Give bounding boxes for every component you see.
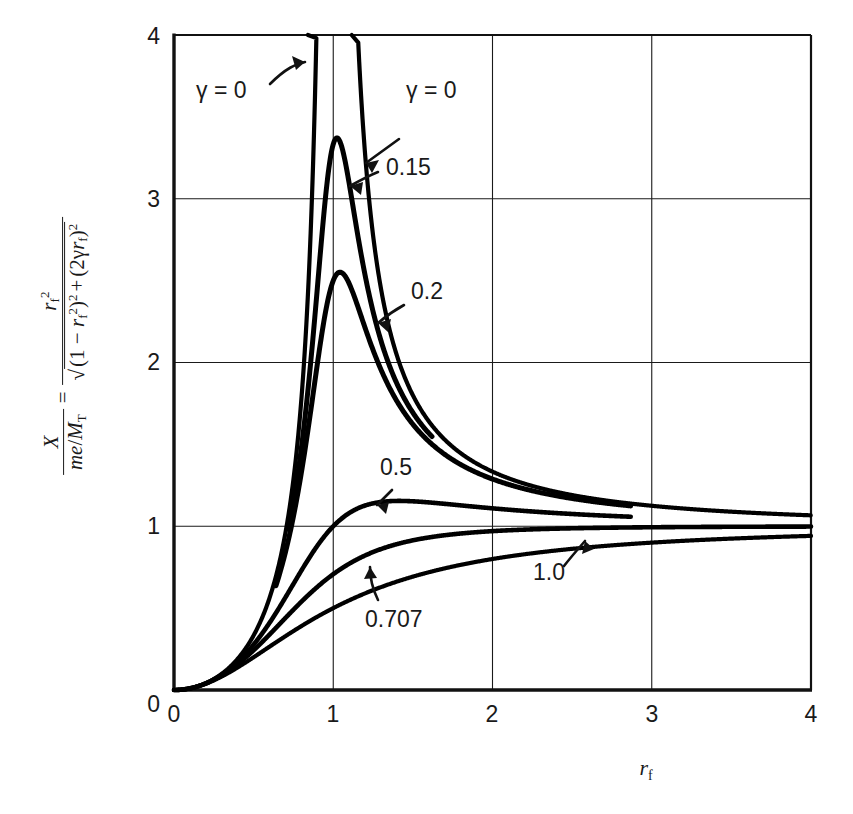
curve-label-0-15: 0.15 <box>386 154 431 180</box>
lhs-me: me <box>63 446 87 471</box>
lhs-M-sub: T <box>73 414 88 422</box>
leader-arrows <box>270 62 585 600</box>
leader-arrowheads <box>292 56 594 579</box>
rad-close-pow: 2 <box>66 294 81 301</box>
rad-open: (1 − <box>65 327 89 367</box>
rhs-r: r <box>37 302 61 310</box>
y-tick-3: 3 <box>147 186 160 212</box>
arrowhead-0707 <box>364 567 377 579</box>
lhs-X: X <box>39 436 63 449</box>
rad2-close: ) <box>65 230 89 237</box>
frequency-response-plot: 0 1 2 3 4 0 1 2 3 4 γ = 0 γ = 0 0.15 0.2… <box>0 0 853 814</box>
rad-plus: + <box>65 277 89 295</box>
rad2-r-sub: f <box>76 237 91 241</box>
x-tick-0: 0 <box>168 701 181 727</box>
y-tick-0: 0 <box>147 691 160 717</box>
rad2-r: r <box>65 242 89 250</box>
y-tick-labels: 0 1 2 3 4 <box>147 23 160 717</box>
curve-label-0-2: 0.2 <box>411 278 443 304</box>
x-axis-title: rf <box>639 755 653 783</box>
x-tick-labels: 0 1 2 3 4 <box>168 701 818 727</box>
rad2-open: (2 <box>65 259 89 277</box>
arrow-015 <box>350 172 378 186</box>
curve-label-gamma-0-left: γ = 0 <box>196 77 247 103</box>
arrow-10 <box>564 541 585 566</box>
rad-r-sub: f <box>76 315 91 319</box>
lhs-slash: / <box>63 440 87 446</box>
y-tick-2: 2 <box>147 349 160 375</box>
svg-text:rf: rf <box>639 755 653 783</box>
figure-canvas: 0 1 2 3 4 0 1 2 3 4 γ = 0 γ = 0 0.15 0.2… <box>0 0 853 814</box>
y-axis-rhs-fraction: rf2 √(1 − rf2)2+(2γrf)2 <box>38 217 90 386</box>
x-tick-2: 2 <box>486 701 499 727</box>
y-axis-title: X me/MT = rf2 √(1 − rf2)2+(2γrf)2 <box>38 186 90 506</box>
rhs-r-sub: f <box>47 298 62 302</box>
x-axis-title-sub: f <box>648 768 653 783</box>
curve-label-1-0: 1.0 <box>533 559 565 585</box>
curve-label-gamma-0-right: γ = 0 <box>406 77 457 103</box>
rad-r: r <box>65 319 89 327</box>
rhs-r-sup: 2 <box>37 292 52 299</box>
radical-icon: √ <box>67 369 88 381</box>
rad-r-sup: 2 <box>66 308 81 315</box>
curve-gamma-0-right-branch <box>352 35 811 515</box>
x-tick-3: 3 <box>646 701 659 727</box>
x-tick-4: 4 <box>805 701 818 727</box>
x-tick-1: 1 <box>327 701 340 727</box>
curve-gamma-0-2 <box>276 272 631 586</box>
lhs-M: M <box>63 422 87 440</box>
rad-close: ) <box>65 301 89 308</box>
y-tick-4: 4 <box>147 23 160 49</box>
rad2-gamma: γ <box>65 250 89 259</box>
curve-label-0-707: 0.707 <box>365 606 423 632</box>
arrowhead-gamma0-left <box>292 56 305 70</box>
y-axis-equals: = <box>54 385 75 409</box>
y-axis-lhs-fraction: X me/MT <box>41 409 88 475</box>
y-tick-1: 1 <box>147 513 160 539</box>
curve-label-0-5: 0.5 <box>380 454 412 480</box>
radicand: (1 − rf2)2+(2γrf)2 <box>65 222 90 369</box>
arrow-02 <box>378 305 404 323</box>
rad2-close-pow: 2 <box>66 224 81 231</box>
